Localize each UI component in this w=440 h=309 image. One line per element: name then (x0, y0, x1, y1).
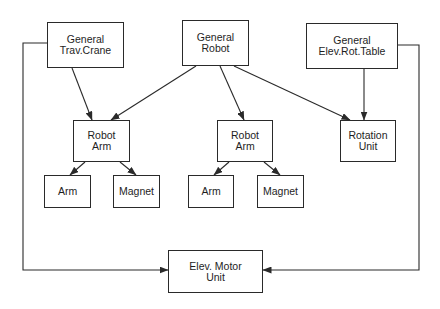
node-label: Trav.Crane (60, 45, 111, 56)
edge-travcrane-robotarm-left (72, 68, 92, 120)
node-arm-left: Arm (44, 175, 91, 208)
edge-robotarm-left-arm (70, 162, 85, 175)
node-label: Arm (87, 141, 115, 152)
node-robot-arm-right: RobotArm (217, 120, 273, 162)
node-rotation-unit: RotationUnit (340, 120, 396, 162)
node-arm-right: Arm (188, 175, 234, 208)
node-label: Elev. Motor (189, 261, 241, 272)
node-label: Arm (58, 186, 77, 197)
node-label: Magnet (263, 186, 298, 197)
node-label: Arm (201, 186, 220, 197)
edge-robot-rotationunit (234, 66, 350, 120)
node-general-trav-crane: GeneralTrav.Crane (47, 22, 124, 68)
node-label: Unit (189, 272, 241, 283)
node-general-robot: GeneralRobot (182, 20, 249, 66)
node-label: Unit (348, 141, 387, 152)
node-general-elev-rot-table: GeneralElev.Rot.Table (306, 23, 398, 69)
edge-robot-robotarm-right (220, 66, 244, 120)
node-magnet-right: Magnet (257, 175, 304, 208)
node-robot-arm-left: RobotArm (73, 120, 130, 162)
node-label: Arm (231, 141, 259, 152)
node-magnet-left: Magnet (113, 175, 160, 208)
node-elev-motor-unit: Elev. MotorUnit (168, 250, 263, 293)
edge-robotarm-right-arm (214, 162, 229, 175)
node-label: Elev.Rot.Table (319, 46, 386, 57)
edge-robotarm-left-magnet (120, 162, 136, 175)
edge-robot-robotarm-left (111, 66, 196, 120)
edge-robotarm-right-magnet (264, 162, 280, 175)
node-label: Robot (197, 43, 234, 54)
node-label: Magnet (119, 186, 154, 197)
